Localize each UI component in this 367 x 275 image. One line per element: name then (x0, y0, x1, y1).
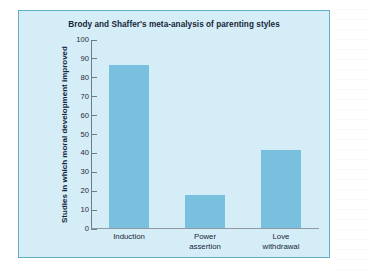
y-tick-mark (91, 40, 97, 41)
y-tick-mark (91, 115, 97, 116)
y-tick-20: 20 (61, 186, 97, 196)
bar-love-withdrawal (261, 150, 301, 228)
scan-margin-noise (336, 0, 367, 275)
y-tick-mark (91, 172, 97, 173)
y-tick-50: 50 (61, 130, 97, 140)
y-tick-60: 60 (61, 111, 97, 121)
y-tick-mark (91, 134, 97, 135)
scanned-page: Brody and Shaffer's meta-analysis of par… (0, 0, 367, 275)
y-tick-80: 80 (61, 73, 97, 83)
y-tick-label: 80 (67, 73, 89, 83)
y-tick-label: 20 (67, 186, 89, 196)
y-tick-label: 10 (67, 205, 89, 215)
y-tick-mark (91, 58, 97, 59)
y-tick-label: 90 (67, 54, 89, 64)
y-tick-mark (91, 153, 97, 154)
y-tick-mark (91, 229, 97, 230)
y-tick-mark (91, 77, 97, 78)
y-tick-30: 30 (61, 167, 97, 177)
category-label-3: Lovewithdrawal (243, 232, 319, 251)
y-tick-70: 70 (61, 92, 97, 102)
y-tick-10: 10 (61, 205, 97, 215)
category-label-1: Induction (91, 232, 167, 242)
y-tick-label: 100 (67, 35, 89, 45)
y-tick-label: 40 (67, 148, 89, 158)
y-tick-label: 70 (67, 92, 89, 102)
y-tick-mark (91, 191, 97, 192)
y-tick-100: 100 (61, 35, 97, 45)
y-tick-label: 0 (67, 224, 89, 234)
y-tick-mark (91, 210, 97, 211)
bar-power-assertion (185, 195, 225, 228)
bar-induction (109, 65, 149, 228)
chart-title: Brody and Shaffer's meta-analysis of par… (19, 20, 329, 30)
plot-area: Studies in which moral development impro… (91, 40, 319, 229)
category-label-2: Powerassertion (167, 232, 243, 251)
y-tick-90: 90 (61, 54, 97, 64)
y-tick-40: 40 (61, 148, 97, 158)
y-tick-label: 30 (67, 167, 89, 177)
y-tick-label: 60 (67, 111, 89, 121)
x-axis-line (91, 228, 319, 229)
y-tick-mark (91, 96, 97, 97)
y-tick-label: 50 (67, 130, 89, 140)
chart-panel: Brody and Shaffer's meta-analysis of par… (18, 10, 330, 258)
